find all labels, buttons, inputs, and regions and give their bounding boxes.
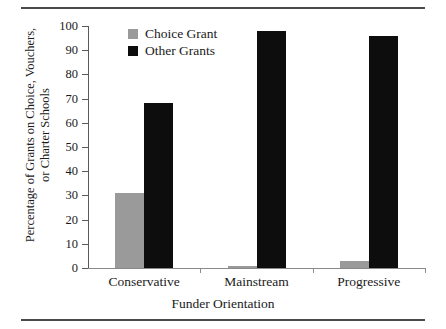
bar-mainstream-choice-grant bbox=[228, 266, 257, 268]
x-axis-tick bbox=[200, 268, 201, 273]
bar-conservative-choice-grant bbox=[115, 193, 144, 268]
bar-conservative-other-grants bbox=[144, 103, 173, 268]
bar-mainstream-other-grants bbox=[257, 31, 286, 268]
y-axis-tick bbox=[82, 268, 88, 269]
legend-label: Choice Grant bbox=[145, 27, 217, 41]
legend-swatch-icon bbox=[128, 46, 138, 56]
x-axis-line bbox=[88, 268, 425, 269]
legend-swatch-icon bbox=[128, 29, 138, 39]
bottom-rule bbox=[21, 319, 425, 321]
top-rule bbox=[21, 7, 425, 9]
x-axis-tick bbox=[425, 268, 426, 273]
legend-label: Other Grants bbox=[145, 44, 215, 58]
figure-container: 0102030405060708090100 ConservativeMains… bbox=[0, 0, 446, 329]
legend-item: Choice Grant bbox=[128, 26, 217, 41]
y-axis-title-line-2: or Charter Schools bbox=[38, 88, 52, 182]
bar-progressive-other-grants bbox=[369, 36, 398, 268]
x-axis-title: Funder Orientation bbox=[0, 296, 446, 312]
x-axis-label-progressive: Progressive bbox=[299, 274, 439, 290]
legend: Choice GrantOther Grants bbox=[128, 26, 217, 60]
bar-progressive-choice-grant bbox=[340, 261, 369, 268]
y-axis-title-line-1: Percentage of Grants on Choice, Vouchers… bbox=[23, 28, 37, 242]
legend-item: Other Grants bbox=[128, 43, 217, 58]
plot-area bbox=[88, 26, 425, 268]
x-axis-tick bbox=[313, 268, 314, 273]
y-axis-title: Percentage of Grants on Choice, Vouchers… bbox=[23, 5, 53, 265]
